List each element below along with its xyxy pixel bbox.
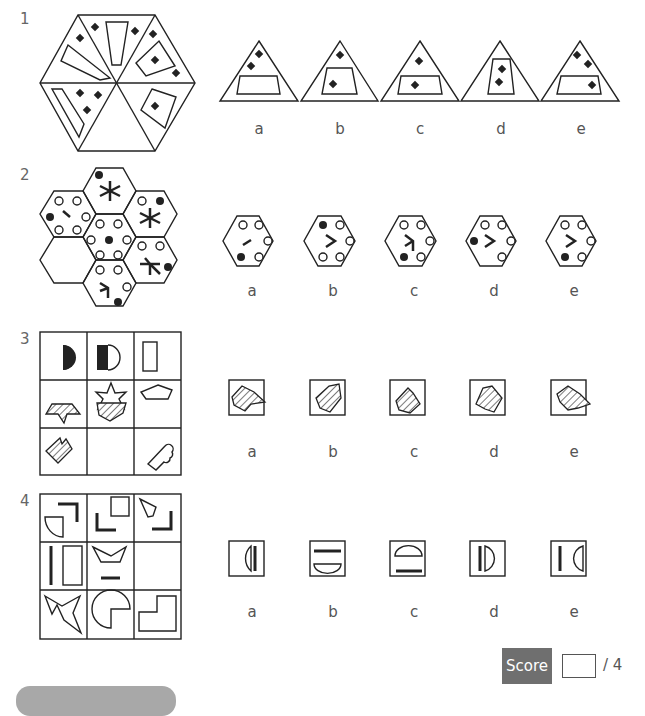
q4-option-c[interactable]: c [394, 603, 434, 621]
q4-option-a-figure [229, 541, 264, 576]
q4-option-e-figure [551, 541, 586, 576]
score-total: / 4 [603, 656, 622, 674]
score-input[interactable] [562, 654, 596, 678]
q4-option-d[interactable]: d [474, 603, 514, 621]
q4-option-a[interactable]: a [232, 603, 272, 621]
q4-option-b[interactable]: b [313, 603, 353, 621]
q4-option-d-figure [470, 541, 505, 576]
q4-option-b-figure [310, 541, 345, 576]
bottom-tab-button[interactable] [16, 686, 176, 716]
q4-option-c-figure [390, 541, 425, 576]
score-label: Score [502, 648, 552, 684]
q4-option-e[interactable]: e [554, 603, 594, 621]
